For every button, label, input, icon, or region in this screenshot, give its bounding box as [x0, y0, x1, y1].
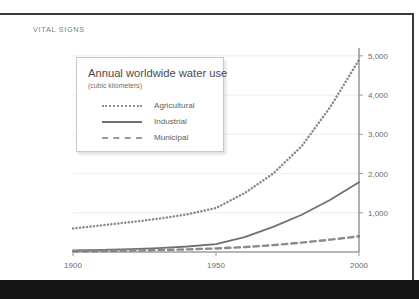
page-kicker: VITAL SIGNS	[33, 25, 85, 34]
y-tick-label: 1,000	[368, 209, 389, 218]
dashed-line-icon	[102, 132, 142, 142]
chart-x-tick-labels: 190019502000	[64, 261, 368, 270]
frame-top-border	[0, 13, 414, 15]
y-tick-label: 5,000	[368, 52, 389, 61]
legend-entry-label: Municipal	[154, 133, 188, 142]
legend-entry-industrial: Industrial	[88, 113, 216, 129]
x-tick-label: 1950	[207, 261, 225, 270]
page-root: VITAL SIGNS 1,0002,0003,0004,0005,000 19…	[0, 0, 419, 299]
x-tick-label: 2000	[350, 261, 368, 270]
legend-entry-label: Industrial	[154, 117, 187, 126]
legend-entry-label: Agricultural	[154, 101, 195, 110]
chart-legend-card: Annual worldwide water use (cubic kilome…	[76, 57, 224, 152]
y-tick-label: 2,000	[368, 170, 389, 179]
solid-line-icon	[102, 116, 142, 126]
dotted-line-icon	[102, 100, 142, 110]
legend-entry-municipal: Municipal	[88, 129, 216, 145]
legend-subtitle: (cubic kilometers)	[88, 82, 142, 89]
chart-y-tick-labels: 1,0002,0003,0004,0005,000	[368, 52, 389, 218]
x-tick-label: 1900	[64, 261, 82, 270]
legend-title: Annual worldwide water use	[88, 67, 227, 79]
legend-entry-list: AgriculturalIndustrialMunicipal	[88, 97, 216, 145]
legend-entry-agricultural: Agricultural	[88, 97, 216, 113]
y-tick-label: 4,000	[368, 91, 389, 100]
y-tick-label: 3,000	[368, 130, 389, 139]
bottom-black-bar	[0, 280, 419, 299]
